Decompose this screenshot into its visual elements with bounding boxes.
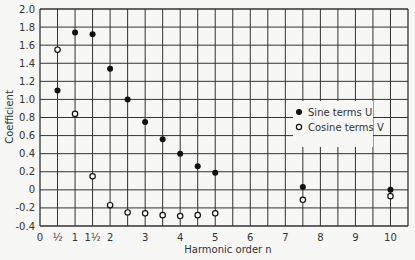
- cosine-point: [90, 174, 95, 179]
- x-tick-label: 4: [177, 232, 183, 243]
- x-tick-label: 0: [37, 232, 43, 243]
- sine-point: [107, 66, 113, 72]
- x-tick-label: 9: [352, 232, 358, 243]
- x-axis-label: Harmonic order n: [184, 244, 271, 255]
- cosine-point: [195, 212, 200, 217]
- y-tick-label: -0.4: [15, 221, 35, 232]
- cosine-point: [72, 111, 77, 116]
- y-tick-label: 0.2: [19, 166, 35, 177]
- x-tick-label: 2: [107, 232, 113, 243]
- x-tick-label: ½: [53, 232, 63, 243]
- y-tick-label: 1.2: [19, 76, 35, 87]
- cosine-point: [213, 211, 218, 216]
- sine-point: [90, 31, 96, 37]
- x-tick-label: 5: [212, 232, 218, 243]
- cosine-point: [142, 211, 147, 216]
- y-tick-label: 1.6: [19, 40, 35, 51]
- sine-point: [212, 170, 218, 176]
- legend-cosine: Cosine terms V: [308, 122, 384, 133]
- y-tick-label: 0.6: [19, 130, 35, 141]
- x-tick-label: 7: [282, 232, 288, 243]
- y-tick-label: 1.0: [19, 94, 35, 105]
- cosine-point: [107, 203, 112, 208]
- y-tick-label: 1.8: [19, 22, 35, 33]
- sine-point: [125, 96, 131, 102]
- y-tick-label: 0.8: [19, 112, 35, 123]
- x-tick-label: 8: [317, 232, 323, 243]
- sine-point: [177, 151, 183, 157]
- sine-point: [142, 119, 148, 125]
- cosine-point: [388, 193, 393, 198]
- y-tick-label: -0.2: [15, 202, 35, 213]
- cosine-point: [125, 210, 130, 215]
- x-tick-label: 3: [142, 232, 148, 243]
- cosine-point: [177, 213, 182, 218]
- y-tick-label: 1.4: [19, 58, 35, 69]
- legend: Sine terms U Cosine terms V: [293, 101, 384, 147]
- y-tick-label: 2.0: [19, 4, 35, 15]
- open-circle-icon: [296, 124, 301, 129]
- y-tick-label: 0: [29, 184, 35, 195]
- sine-point: [300, 184, 306, 190]
- x-tick-label: 6: [247, 232, 253, 243]
- y-axis-label: Coefficient: [4, 90, 15, 144]
- x-tick-label: 1½: [85, 232, 101, 243]
- legend-sine: Sine terms U: [308, 107, 372, 118]
- filled-circle-icon: [296, 109, 302, 115]
- y-axis-ticks: -0.4-0.200.20.40.60.81.01.21.41.61.82.0: [15, 4, 35, 232]
- sine-point: [195, 163, 201, 169]
- x-tick-label: 10: [384, 232, 397, 243]
- sine-point: [55, 87, 61, 93]
- cosine-point: [300, 197, 305, 202]
- y-tick-label: 0.4: [19, 148, 35, 159]
- x-axis-ticks: 0½11½2345678910: [37, 232, 397, 243]
- sine-point: [160, 136, 166, 142]
- cosine-point: [55, 47, 60, 52]
- sine-point: [387, 187, 393, 193]
- cosine-point: [160, 212, 165, 217]
- x-tick-label: 1: [72, 232, 78, 243]
- harmonic-coefficient-chart: -0.4-0.200.20.40.60.81.01.21.41.61.82.0 …: [0, 0, 415, 260]
- sine-point: [72, 30, 78, 36]
